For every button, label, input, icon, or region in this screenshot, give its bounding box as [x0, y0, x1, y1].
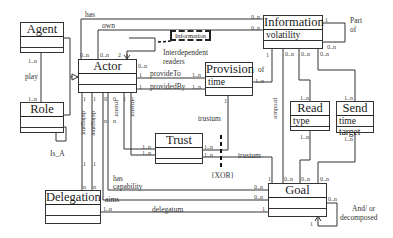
- class-delegation-operations: [46, 216, 100, 226]
- mult-agent-play: 1..n: [28, 58, 37, 64]
- class-send-attr-target: target: [337, 127, 373, 137]
- mult-goal-send: 0..n: [320, 176, 329, 182]
- label-trustor-1: trustor: [114, 100, 121, 117]
- class-information-name: Information: [264, 16, 322, 30]
- class-role-name: Role: [21, 103, 63, 117]
- mult-information-read: 0..n: [301, 51, 310, 57]
- class-information[interactable]: Information volatility: [263, 15, 323, 49]
- mult-deleg-delegatum: 1..n: [103, 206, 112, 212]
- class-delegation[interactable]: Delegation: [45, 190, 101, 224]
- class-role-operations: [21, 128, 63, 138]
- mult-actor-aims: 0: [113, 96, 116, 102]
- class-send-attr-time: time: [337, 116, 373, 127]
- mult-information-of: 1: [266, 52, 269, 58]
- mult-deleg-delegator: 1: [83, 161, 86, 167]
- class-provision-operations: [206, 88, 252, 98]
- class-agent-operations: [21, 48, 63, 58]
- label-has: has: [85, 11, 95, 19]
- class-goal-attributes: [269, 198, 326, 209]
- class-actor-attributes: [79, 74, 136, 85]
- label-is-a: Is_A: [50, 150, 65, 158]
- class-provision-attr-time: time: [206, 77, 252, 88]
- class-actor-operations: [79, 85, 136, 95]
- class-read-attr-type: type: [291, 116, 329, 127]
- information-note-tag: Information: [170, 30, 211, 41]
- label-has-cap-2: capability: [113, 183, 143, 191]
- class-agent-name: Agent: [21, 23, 63, 37]
- label-readers: readers: [163, 58, 185, 66]
- class-goal-name: Goal: [269, 184, 326, 198]
- class-send-name: Send: [337, 102, 373, 116]
- class-provision[interactable]: Provision time: [205, 62, 253, 96]
- class-read-operations: [291, 127, 329, 137]
- label-own: own: [102, 22, 115, 30]
- mult-deleg-n1: n: [83, 184, 86, 190]
- mult-provision-providedBy: 1..n: [192, 84, 201, 90]
- class-read-name: Read: [291, 102, 329, 116]
- mult-actor-provideTo: 1: [139, 72, 142, 78]
- mult-actor-self-b: 0..n: [138, 63, 147, 69]
- mult-actor-self: 2: [118, 52, 121, 58]
- mult-read-bottom: 1..n: [300, 134, 309, 140]
- label-and-or: And/ or: [352, 205, 375, 213]
- mult-send-top: 1..n: [344, 95, 353, 101]
- mult-trust-c: 1..n: [204, 144, 213, 150]
- class-delegation-name: Delegation: [46, 191, 100, 205]
- class-trust-name: Trust: [156, 134, 202, 148]
- class-actor-name: Actor: [79, 60, 136, 74]
- class-delegation-attributes: [46, 205, 100, 216]
- mult-actor-providedBy: 1: [139, 84, 142, 90]
- mult-read-top: 1..n: [300, 95, 309, 101]
- class-role[interactable]: Role: [20, 102, 64, 133]
- class-goal[interactable]: Goal: [268, 183, 327, 217]
- label-trustum-bottom: trustum: [238, 152, 261, 160]
- mult-trust-b: 1..n: [142, 150, 151, 156]
- mult-role-play: 1..n: [28, 96, 37, 102]
- mult-goal-aims: 0..n: [254, 194, 263, 200]
- mult-actor-own: 0..n: [100, 52, 109, 58]
- mult-goal-decomp-1: 1: [310, 221, 313, 227]
- mult-goal-trustum: 1: [268, 176, 271, 182]
- mult-send-bottom: 1..n: [344, 136, 353, 142]
- class-trust[interactable]: Trust: [155, 133, 203, 164]
- mult-information-produce: 0..n: [285, 51, 294, 57]
- class-send[interactable]: Send time target: [336, 101, 374, 133]
- label-trustum-top: trustum: [198, 115, 221, 123]
- mult-provision-of: 1..n: [255, 78, 264, 84]
- mult-provision-trust: 1: [224, 98, 227, 104]
- label-play: play: [25, 73, 38, 81]
- label-of: of: [258, 66, 264, 74]
- label-part-of: of: [350, 26, 356, 34]
- class-actor[interactable]: Actor: [78, 59, 137, 93]
- mult-goal-decomp-n: 0..n: [328, 196, 337, 202]
- label-provided-by: providedBy: [150, 83, 185, 91]
- mult-actor-delegator: 1: [83, 96, 86, 102]
- label-trustor-2: trustor: [130, 100, 137, 117]
- label-delegatee: delegatee: [91, 111, 98, 136]
- mult-actor-trustor1: 1: [123, 96, 126, 102]
- class-provision-name: Provision: [206, 63, 252, 77]
- mult-goal-cap: 0..n: [254, 184, 263, 190]
- label-delegatum: delegatum: [152, 206, 183, 214]
- mult-deleg-delegatee: 1: [93, 161, 96, 167]
- label-part: Part: [350, 17, 362, 25]
- mult-actor-aims-n: n: [113, 118, 116, 124]
- class-role-attributes: [21, 117, 63, 128]
- label-produce: produce: [273, 98, 280, 119]
- label-decomposed: decomposed: [340, 214, 378, 222]
- class-information-attr-volatility: volatility: [264, 30, 322, 41]
- class-read[interactable]: Read type: [290, 101, 330, 131]
- class-trust-attributes: [156, 148, 202, 159]
- mult-actor-trustor2: 1: [131, 96, 134, 102]
- label-interdependent: Interdependent: [163, 49, 208, 57]
- mult-actor-has: 0..n: [80, 52, 89, 58]
- label-provide-to: provideTo: [150, 70, 181, 78]
- mult-actor-cap-n: n: [104, 118, 107, 124]
- mult-provision-provideTo: 1..n: [192, 72, 201, 78]
- class-agent-attributes: [21, 37, 63, 48]
- mult-information-part-n: 0..n: [327, 44, 336, 50]
- class-agent[interactable]: Agent: [20, 22, 64, 53]
- mult-goal-produce: 0..n: [284, 176, 293, 182]
- class-goal-operations: [269, 209, 326, 219]
- class-trust-operations: [156, 159, 202, 169]
